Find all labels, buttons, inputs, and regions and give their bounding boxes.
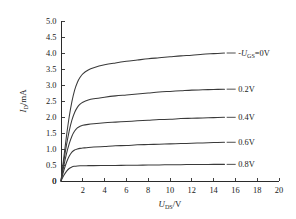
curve-label-3: 0.6V [238,138,255,147]
y-tick-label: 1.0 [46,145,56,154]
curve-label-2: 0.4V [238,113,255,122]
y-tick-label: 4.0 [46,49,56,58]
x-tick-label: 10 [166,186,174,195]
y-tick-label: 4.5 [46,33,56,42]
x-tick-label: 2 [81,186,85,195]
y-tick-label: 1.5 [46,129,56,138]
x-tick-label: 12 [188,186,196,195]
curve-label-0: -UGS=0V [238,49,270,59]
x-tick-label: 14 [209,186,218,195]
y-tick-label: 0.5 [46,161,56,170]
y-tick-label: 5.0 [46,17,56,26]
svg-text:ID/mA: ID/mA [18,89,29,114]
x-tick-label: 18 [253,186,261,195]
curve-label-4: 0.8V [238,160,255,169]
y-tick-label: 3.5 [46,65,56,74]
y-tick-label: 2.5 [46,97,56,106]
figure-container: 00.51.01.52.02.53.03.54.04.55.0 24681012… [0,0,296,219]
y-axis-title: ID/mA [18,89,29,114]
x-tick-label: 6 [124,186,128,195]
x-tick-label: 16 [231,186,239,195]
output-characteristics-chart: 00.51.01.52.02.53.03.54.04.55.0 24681012… [0,0,296,219]
curve-label-1: 0.2V [238,85,255,94]
x-tick-label: 8 [146,186,150,195]
y-tick-label: 3.0 [46,81,56,90]
y-tick-label: 2.0 [46,113,56,122]
x-tick-label: 20 [275,186,283,195]
origin-label: 0 [52,177,56,186]
